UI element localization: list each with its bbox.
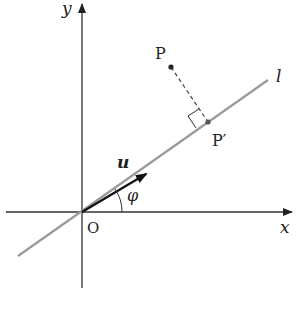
point-p-prime-label: P′ — [212, 131, 227, 150]
perpendicular-dashed — [171, 67, 208, 122]
point-p — [168, 64, 173, 69]
line-l — [18, 80, 268, 256]
point-p-prime — [205, 119, 210, 124]
y-axis-label: y — [61, 0, 72, 18]
point-p-label: P — [155, 44, 166, 63]
line-l-label: l — [276, 66, 281, 86]
angle-phi-label: φ — [127, 186, 139, 205]
vector-u-label: u — [117, 152, 129, 172]
x-axis-label: x — [280, 217, 290, 237]
right-angle-marker — [188, 109, 199, 128]
origin-label: O — [87, 219, 99, 237]
projection-diagram: y x O P P′ l u φ — [0, 0, 298, 329]
